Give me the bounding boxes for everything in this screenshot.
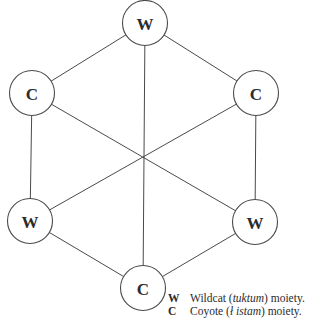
legend-native-term: tuktum [233, 292, 264, 304]
node-lower-left: W [8, 199, 53, 244]
legend-description: Coyote (ł istam) moiety. [190, 305, 302, 318]
node-label: W [247, 214, 264, 233]
node-label: C [250, 85, 262, 104]
legend-suffix: moiety. [271, 292, 305, 304]
legend-name: Coyote [190, 305, 223, 317]
node-label: C [26, 85, 38, 104]
diagram-edges [30, 23, 256, 288]
node-top: W [123, 1, 168, 46]
node-bottom: C [121, 266, 166, 311]
legend-key: C [168, 305, 190, 318]
node-upper-left: C [10, 71, 55, 116]
legend-suffix: moiety. [268, 305, 302, 317]
node-lower-right: W [233, 200, 278, 245]
moiety-hexagon-diagram: WCWCWC [0, 0, 319, 321]
node-upper-right: C [234, 71, 279, 116]
legend-key: W [168, 292, 190, 305]
legend-name: Wildcat [190, 292, 226, 304]
legend-item-coyote: C Coyote (ł istam) moiety. [168, 305, 305, 318]
legend: W Wildcat (tuktum) moiety. C Coyote (ł i… [168, 292, 305, 317]
node-label: W [137, 15, 154, 34]
node-label: C [137, 280, 149, 299]
legend-item-wildcat: W Wildcat (tuktum) moiety. [168, 292, 305, 305]
legend-native-term: ł istam [230, 305, 261, 317]
legend-description: Wildcat (tuktum) moiety. [190, 292, 305, 305]
node-label: W [22, 213, 39, 232]
